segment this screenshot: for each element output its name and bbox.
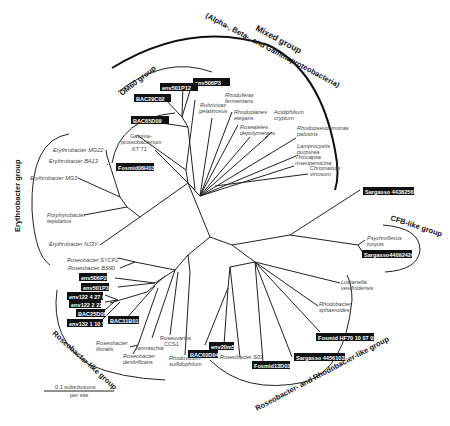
clone-BAC65D09: BAC65D09 bbox=[131, 116, 169, 124]
branch bbox=[105, 295, 118, 300]
scale-bar-label: 0.1 substitutions bbox=[55, 384, 96, 390]
branch-bac31b01 bbox=[125, 286, 155, 320]
group-label-mixed-subtitle: (Alpha-, Beta-, and Gammaproteobacteria) bbox=[204, 11, 342, 90]
svg-text:Fosmid06H03: Fosmid06H03 bbox=[118, 165, 154, 171]
clone-Fosmid13D03: Fosmid13D03 bbox=[252, 361, 290, 369]
taxon-erythrobacter-mg22: Erythrobacter MG22 bbox=[53, 147, 104, 153]
branch-lamprocystis bbox=[200, 156, 296, 196]
branch-ba13 bbox=[107, 164, 108, 165]
taxon-erythrobacter-mg3: Erythrobacter MG3 bbox=[30, 175, 78, 181]
svg-text:depolymerans: depolymerans bbox=[240, 130, 275, 136]
clone-Sargasso44092426: Sargasso44092426 bbox=[362, 250, 414, 258]
svg-text:env20m5: env20m5 bbox=[211, 344, 235, 350]
svg-text:sulfidophilum: sulfidophilum bbox=[169, 361, 202, 367]
svg-text:env122 2 22: env122 2 22 bbox=[71, 302, 102, 308]
branch-rhodovulum bbox=[185, 272, 190, 355]
svg-text:gelatinosus: gelatinosus bbox=[199, 108, 228, 114]
group-label-om60: OM60 group bbox=[118, 63, 158, 97]
branch-porphyrobacter bbox=[84, 207, 127, 215]
svg-text:CCS1: CCS1 bbox=[164, 341, 179, 347]
branch bbox=[232, 235, 290, 245]
branch-loktanella bbox=[255, 262, 340, 283]
branch bbox=[120, 262, 135, 268]
branch-hf70 bbox=[255, 262, 320, 332]
svg-text:tepidarius: tepidarius bbox=[47, 218, 71, 224]
svg-text:Sargasso44092426: Sargasso44092426 bbox=[364, 252, 414, 258]
clone-env506P2: env506P2 bbox=[79, 273, 107, 281]
branch bbox=[118, 258, 135, 262]
clone-FosmidHF70: Fosmid HF70 10 07 02 bbox=[316, 333, 376, 341]
svg-text:env506P2: env506P2 bbox=[81, 275, 107, 281]
svg-text:BAC31B01: BAC31B01 bbox=[110, 318, 139, 324]
svg-text:Sargasso 44382567: Sargasso 44382567 bbox=[365, 189, 417, 195]
branch-sargasso44561033 bbox=[255, 262, 292, 357]
clone-BAC29C02: BAC29C02 bbox=[134, 94, 171, 102]
clone-Sargasso44382567: Sargasso 44382567 bbox=[363, 187, 417, 195]
clone-Sargasso44561033: Sargasso 44561033 bbox=[294, 353, 348, 361]
branch bbox=[140, 183, 188, 217]
clone-env501P12: env501P12 bbox=[160, 83, 198, 91]
svg-text:palustris: palustris bbox=[296, 131, 318, 137]
svg-text:vestfoldensis: vestfoldensis bbox=[341, 285, 374, 291]
branch bbox=[188, 127, 195, 190]
clone-env122-4-27-0: env122 4 27 0 bbox=[67, 292, 105, 300]
svg-text:proteobacterium: proteobacterium bbox=[121, 139, 162, 145]
branch bbox=[138, 288, 158, 345]
phylogenetic-tree: Mixed group (Alpha-, Beta-, and Gammapro… bbox=[0, 0, 450, 426]
svg-text:denitrificans: denitrificans bbox=[123, 359, 153, 365]
svg-text:KT 71: KT 71 bbox=[132, 146, 147, 152]
arc-cfb-group bbox=[383, 225, 420, 272]
trunk-branch bbox=[186, 100, 210, 237]
branch-rhodoferax bbox=[200, 112, 232, 196]
svg-text:BAC65D09: BAC65D09 bbox=[133, 118, 162, 124]
taxon-roseobacter-bs90: Roseobacter BS90 bbox=[68, 265, 116, 271]
branch-fosmid13d03 bbox=[255, 262, 263, 362]
branch-jannaschia bbox=[152, 270, 175, 338]
svg-text:vinosum: vinosum bbox=[310, 171, 331, 177]
branch bbox=[232, 245, 255, 262]
branch-env501p3 bbox=[118, 283, 155, 287]
group-label-roseobacter-like: Roseobacter-like group bbox=[51, 329, 120, 392]
branch bbox=[228, 267, 230, 288]
svg-text:sphaeroides: sphaeroides bbox=[319, 307, 350, 313]
svg-text:env501P12: env501P12 bbox=[162, 85, 191, 91]
svg-text:BAC29C02: BAC29C02 bbox=[136, 96, 165, 102]
branch-nj3y bbox=[100, 217, 140, 245]
taxon-roseobacter-s03: Roseobacter S03 bbox=[220, 354, 264, 360]
trunk-branch-roseo bbox=[175, 237, 210, 270]
taxon-erythrobacter-ba13: Erythrobacter BA13 bbox=[49, 158, 99, 164]
clone-BAC25D08: BAC25D08 bbox=[76, 309, 107, 317]
svg-text:env501P3: env501P3 bbox=[83, 285, 109, 291]
branch bbox=[230, 262, 255, 267]
clone-labels: env506P3 env501P12 BAC29C02 BAC65D09 Fos… bbox=[67, 78, 417, 369]
branch bbox=[358, 240, 365, 245]
branch-rhodobacter bbox=[255, 262, 318, 306]
branch bbox=[107, 156, 120, 197]
svg-text:env506P3: env506P3 bbox=[195, 80, 221, 86]
svg-text:Sargasso 44561033: Sargasso 44561033 bbox=[296, 355, 348, 361]
group-label-roseo-rhodo: Roseobacter- and Rhodobacter-like group bbox=[254, 334, 391, 413]
taxon-jannaschia: Jannaschia bbox=[134, 345, 163, 351]
branch-cfb bbox=[290, 235, 358, 245]
clone-env20m5: env20m5 bbox=[209, 342, 235, 350]
clone-Fosmid06H03: Fosmid06H03 bbox=[116, 163, 154, 171]
svg-text:litoralis: litoralis bbox=[96, 346, 114, 352]
svg-text:Fosmid HF70 10 07 02: Fosmid HF70 10 07 02 bbox=[318, 335, 376, 341]
taxon-roseobacter-sycp2: Roseobacter SYCP2 bbox=[67, 257, 120, 263]
svg-text:env132 1 10 5: env132 1 10 5 bbox=[69, 321, 105, 327]
branch-env506p2 bbox=[115, 278, 155, 283]
svg-text:env122 4 27 0: env122 4 27 0 bbox=[69, 294, 105, 300]
branch-mg22 bbox=[106, 150, 107, 156]
branch bbox=[200, 136, 268, 196]
branch-rhodopseudomonas bbox=[200, 138, 296, 196]
branch bbox=[127, 207, 140, 217]
clone-env122-2-22: env122 2 22 bbox=[69, 300, 102, 308]
taxon-erythrobacter-nj3y: Erythrobacter NJ3Y bbox=[49, 241, 99, 247]
clone-BAC31B01: BAC31B01 bbox=[108, 316, 139, 324]
svg-text:elegans: elegans bbox=[234, 115, 254, 121]
clone-env132-1-10-5: env132 1 10 5 bbox=[67, 319, 105, 327]
svg-text:fermentans: fermentans bbox=[225, 98, 253, 104]
group-label-erythrobacter: Erythrobacter group bbox=[13, 159, 22, 232]
scale-bar-unit: per site bbox=[70, 392, 88, 398]
branch-sargasso44382567 bbox=[290, 190, 360, 235]
